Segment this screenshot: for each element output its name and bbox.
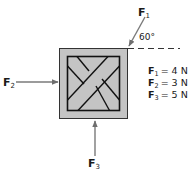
force-values-legend: F1= 4 N F2= 3 N F3= 5 N xyxy=(148,65,188,102)
legend-f3: F3= 5 N xyxy=(148,89,188,102)
force-label-f3: F3 xyxy=(88,157,100,171)
force-label-f2: F2 xyxy=(3,76,15,90)
force-diagram: F1 60° F2 F3 F1= 4 N F2= 3 N F3= 5 N xyxy=(0,0,193,173)
force-label-f1: F1 xyxy=(138,6,150,20)
angle-label: 60° xyxy=(139,32,155,42)
crate xyxy=(60,49,128,119)
